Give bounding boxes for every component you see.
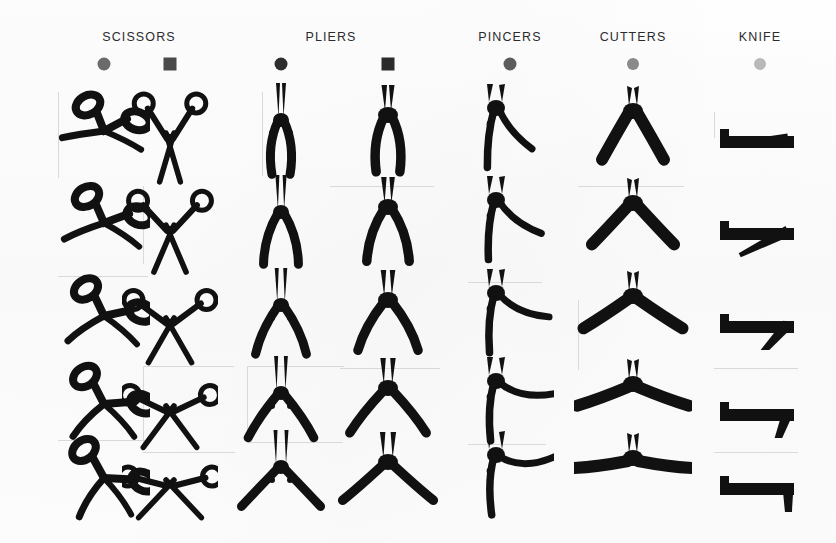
- column-title-scissors: SCISSORS: [102, 30, 175, 44]
- legend-marker-circle-knife-0: [754, 58, 766, 70]
- tool-silhouette-pliers-b-row5: [336, 424, 440, 536]
- legend-marker-circle-pincers-0: [504, 58, 517, 71]
- tool-silhouette-cutters-row5: [574, 427, 692, 533]
- legend-marker-square-scissors-1: [164, 58, 177, 71]
- legend-marker-circle-cutters-0: [627, 58, 639, 70]
- legend-marker-circle-pliers-0: [275, 58, 288, 71]
- tool-silhouette-knife-row3: [708, 286, 812, 350]
- legend-marker-circle-scissors-0: [98, 58, 111, 71]
- column-title-cutters: CUTTERS: [600, 30, 667, 44]
- bbox-remnant-16: [714, 368, 798, 369]
- legend-marker-square-pliers-1: [382, 58, 395, 71]
- column-title-pincers: PINCERS: [478, 30, 541, 44]
- tool-silhouette-pincers-row5: [466, 425, 554, 535]
- figure-plate: SCISSORSPLIERSPINCERSCUTTERSKNIFE: [0, 0, 836, 543]
- tool-silhouette-knife-row5: [708, 448, 812, 512]
- tool-silhouette-knife-row4: [708, 374, 812, 438]
- tool-silhouette-scissors-b-row5: [122, 426, 218, 534]
- column-title-knife: KNIFE: [739, 30, 781, 44]
- tool-silhouette-knife-row1: [708, 101, 812, 165]
- tool-silhouette-pliers-a-row5: [229, 424, 333, 536]
- tool-silhouette-knife-row2: [708, 193, 812, 257]
- column-title-pliers: PLIERS: [305, 30, 356, 44]
- tool-silhouette-scissors-b-row2: [122, 171, 218, 279]
- tool-silhouette-cutters-row2: [574, 172, 692, 278]
- tool-silhouette-cutters-row1: [574, 80, 692, 186]
